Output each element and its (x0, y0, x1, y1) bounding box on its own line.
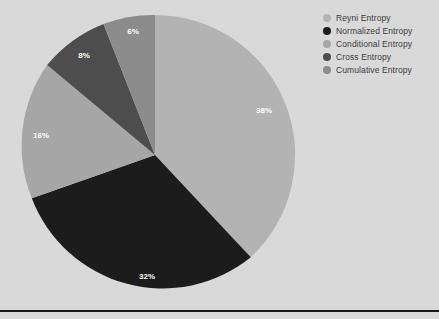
legend-item-reyni-entropy[interactable]: Reyni Entropy (323, 12, 439, 25)
pie-slice-value-reyni-entropy: 38% (256, 106, 272, 115)
pie-chart-svg: 38% 32% 16% 8% 6% (0, 0, 318, 310)
legend-item-label: Conditional Entropy (336, 40, 412, 49)
pie-slice-value-normalized-entropy: 32% (139, 272, 155, 281)
legend-item-conditional-entropy[interactable]: Conditional Entropy (323, 38, 439, 51)
pie-slice-value-cumulative-entropy: 6% (127, 27, 139, 36)
legend-item-cross-entropy[interactable]: Cross Entropy (323, 51, 439, 64)
legend-swatch-circle-icon (323, 40, 331, 48)
legend-item-label: Cumulative Entropy (336, 66, 412, 75)
chart-canvas: 38% 32% 16% 8% 6% Reyni Entropy Normaliz… (0, 0, 439, 319)
chart-legend: Reyni Entropy Normalized Entropy Conditi… (323, 12, 439, 76)
legend-item-cumulative-entropy[interactable]: Cumulative Entropy (323, 64, 439, 77)
legend-item-label: Reyni Entropy (336, 14, 391, 23)
legend-item-label: Cross Entropy (336, 53, 391, 62)
legend-swatch-circle-icon (323, 53, 331, 61)
legend-item-label: Normalized Entropy (336, 27, 412, 36)
pie-slice-value-conditional-entropy: 16% (33, 131, 49, 140)
legend-item-normalized-entropy[interactable]: Normalized Entropy (323, 25, 439, 38)
legend-swatch-circle-icon (323, 14, 331, 22)
pie-slice-value-cross-entropy: 8% (78, 51, 90, 60)
bottom-margin-strip (0, 312, 439, 319)
pie-chart-plot-area: 38% 32% 16% 8% 6% (0, 0, 318, 310)
legend-swatch-circle-icon (323, 66, 331, 74)
legend-swatch-circle-icon (323, 27, 331, 35)
